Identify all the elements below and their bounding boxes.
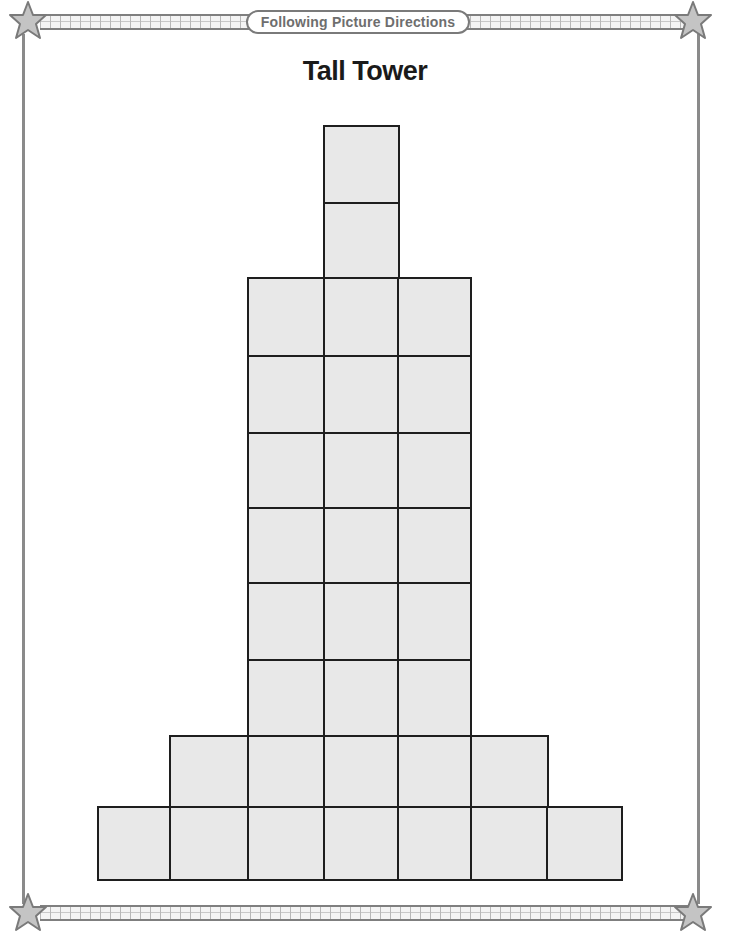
- tower-cell: [323, 806, 400, 881]
- tower-cell: [397, 355, 472, 435]
- frame-left-border: [22, 34, 25, 904]
- star-icon: [8, 0, 48, 40]
- tower-cell: [397, 806, 472, 881]
- section-banner: Following Picture Directions: [246, 10, 470, 34]
- tower-cell: [397, 659, 472, 738]
- tower-cell: [323, 582, 400, 662]
- tower-cell: [169, 735, 250, 809]
- tower-cell: [323, 355, 400, 435]
- tower-cell: [323, 507, 400, 585]
- star-icon: [8, 892, 48, 932]
- tower-cell: [397, 582, 472, 662]
- tower-cell: [247, 355, 326, 435]
- tower-cell: [323, 202, 400, 280]
- tower-cell: [397, 507, 472, 585]
- tower-cell: [397, 735, 472, 809]
- tower-cell: [323, 277, 400, 358]
- bottom-ribbon: [40, 905, 690, 921]
- tower-cell: [247, 432, 326, 510]
- tower-cell: [169, 806, 250, 881]
- tower-cell: [247, 277, 326, 358]
- frame-right-border: [697, 34, 700, 904]
- page-title: Tall Tower: [0, 56, 730, 87]
- tower-cell: [397, 277, 472, 358]
- tower-cell: [397, 432, 472, 510]
- tower-cell: [247, 659, 326, 738]
- tower-cell: [97, 806, 172, 881]
- tower-cell: [247, 582, 326, 662]
- tower-cell: [323, 659, 400, 738]
- tower-cell: [323, 735, 400, 809]
- tower-cell: [323, 432, 400, 510]
- tower-cell: [247, 735, 326, 809]
- star-icon: [673, 0, 713, 40]
- tower-cell: [470, 806, 549, 881]
- tower-cell: [247, 507, 326, 585]
- tower-cell: [323, 125, 400, 205]
- star-icon: [673, 892, 713, 932]
- tower-cell: [470, 735, 549, 809]
- tower-cell: [247, 806, 326, 881]
- tower-cell: [546, 806, 623, 881]
